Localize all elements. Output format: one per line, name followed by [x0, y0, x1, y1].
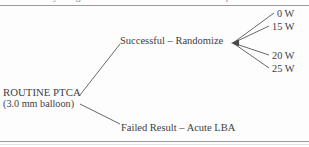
node-routine-ptca-line1: ROUTINE PTCA — [3, 86, 81, 98]
horizontal-rule-bottom — [0, 141, 309, 142]
connector-randomize-to-0w — [233, 13, 274, 43]
connector-randomize-to-25w — [233, 43, 269, 68]
horizontal-rule-bottom-faint — [0, 144, 309, 145]
leaf-arm-20w: 20 W — [272, 50, 294, 62]
node-routine-ptca: ROUTINE PTCA (3.0 mm balloon) — [3, 86, 81, 110]
node-successful-randomize: Successful – Randomize — [120, 35, 223, 47]
connector-root-to-failed — [80, 104, 120, 124]
node-failed-result-acute-lba: Failed Result – Acute LBA — [121, 122, 235, 134]
connector-root-to-successful — [80, 44, 120, 95]
arrowhead-into-randomize — [231, 40, 239, 47]
leaf-arm-0w: 0 W — [277, 8, 294, 20]
figure-container: Table 1. Study design of randomized and … — [0, 0, 309, 147]
node-routine-ptca-line2: (3.0 mm balloon) — [3, 98, 81, 110]
leaf-arm-25w: 25 W — [272, 63, 294, 75]
leaf-arm-15w: 15 W — [272, 21, 294, 33]
